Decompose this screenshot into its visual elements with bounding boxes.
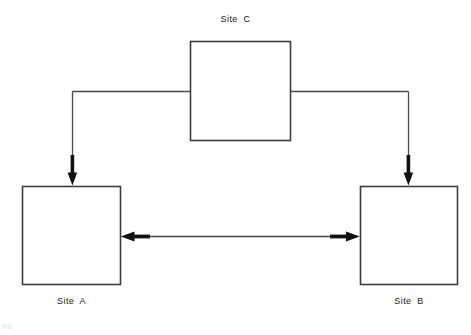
link-ab-right-arrowhead [346, 231, 360, 241]
diagram-graphics [0, 0, 471, 335]
node-box-site-b[interactable] [361, 187, 458, 285]
node-box-site-c[interactable] [191, 42, 291, 141]
drop-right-arrow-shaft [407, 155, 411, 175]
drop-left-arrow-shaft [71, 155, 75, 175]
drop-left-arrowhead [68, 173, 78, 186]
node-box-site-a[interactable] [23, 187, 121, 285]
link-ab-left-shaft [132, 235, 150, 239]
link-ab-left-arrowhead [121, 231, 135, 241]
drop-right-arrowhead [404, 173, 414, 186]
connector-site-a-to-site-b [121, 231, 360, 241]
link-ab-right-shaft [330, 235, 348, 239]
connector-site-c-to-site-b [404, 92, 414, 186]
connector-site-c-to-site-a [68, 92, 78, 186]
node-label-site-c: Site C [0, 14, 471, 24]
diagram-canvas: Site C Site A Site B [0, 0, 471, 335]
node-label-site-b: Site B [360, 296, 458, 306]
node-label-site-a: Site A [22, 296, 121, 306]
scan-artifact [2, 324, 12, 329]
